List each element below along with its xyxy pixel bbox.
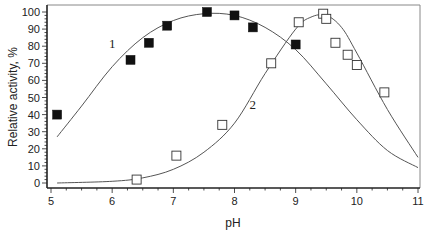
curve-label-1: 1 [109,36,116,51]
filled-square-marker [202,8,211,17]
open-square-marker [294,18,303,27]
x-tick-label: 11 [412,195,423,207]
y-tick-label: 90 [28,23,40,35]
filled-square-marker [53,110,62,119]
y-tick-label: 40 [28,109,40,121]
x-tick-label: 7 [170,195,176,207]
y-tick-label: 20 [28,143,40,155]
x-axis-title: pH [225,216,240,230]
x-tick-label: 6 [109,195,115,207]
x-axis: 567891011 [48,188,424,207]
filled-square-marker [126,55,135,64]
open-square-marker [343,50,352,59]
filled-square-marker [230,11,239,20]
y-tick-label: 0 [34,177,40,189]
open-square-marker [267,59,276,68]
open-square-marker [132,175,141,184]
open-square-marker [331,38,340,47]
y-axis-title: Relative activity, % [6,47,20,147]
y-tick-label: 100 [22,6,40,18]
y-tick-label: 30 [28,126,40,138]
open-square-marker [172,151,181,160]
y-tick-label: 60 [28,74,40,86]
filled-square-marker [144,38,153,47]
open-square-marker [322,14,331,23]
data-markers [53,8,389,185]
open-square-marker [380,88,389,97]
filled-square-marker [291,40,300,49]
x-tick-label: 10 [351,195,363,207]
filled-square-marker [163,21,172,30]
plot-frame [47,5,420,188]
y-tick-label: 10 [28,160,40,172]
y-tick-label: 50 [28,92,40,104]
ph-activity-chart: 0102030405060708090100 567891011 12 pH R… [0,0,431,234]
open-square-marker [352,61,361,70]
open-square-marker [218,120,227,129]
y-axis: 0102030405060708090100 [22,6,47,189]
x-tick-label: 8 [231,195,237,207]
x-tick-label: 9 [293,195,299,207]
x-tick-label: 5 [48,195,54,207]
y-tick-label: 70 [28,57,40,69]
curve-label-2: 2 [250,97,257,112]
y-tick-label: 80 [28,40,40,52]
filled-square-marker [248,23,257,32]
